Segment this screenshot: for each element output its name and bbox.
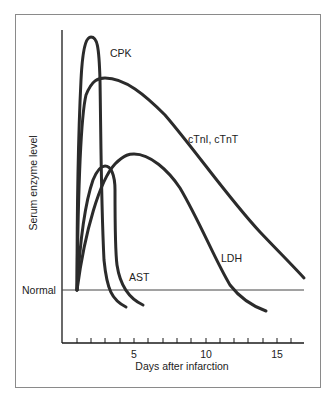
ctn-label: cTnI, cTnT [188,133,239,145]
x-axis-label: Days after infarction [135,360,229,372]
x-tick-label-5: 5 [131,348,137,360]
x-axis-ticks [77,338,291,343]
x-tick-label-15: 15 [271,348,283,360]
ldh-label: LDH [221,252,242,264]
cpk-label: CPK [110,47,132,59]
x-tick-label-10: 10 [200,348,212,360]
ldh-curve [77,154,266,311]
enzyme-chart: 5 10 15 Days after infarction Serum enzy… [0,0,335,400]
normal-label: Normal [22,284,56,296]
ast-label: AST [129,271,150,283]
y-axis-label: Serum enzyme level [27,135,39,230]
ctn-curve [77,78,304,290]
